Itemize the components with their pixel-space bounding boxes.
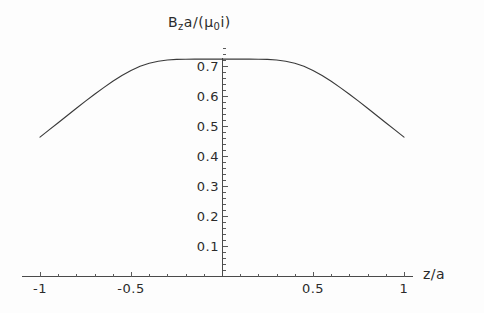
plot-figure: Bza/(μ0i) z/a -1-0.50.510.10.20.30.40.50… [0, 0, 484, 313]
axial-field-curve [40, 59, 404, 137]
plot-canvas [0, 0, 484, 313]
